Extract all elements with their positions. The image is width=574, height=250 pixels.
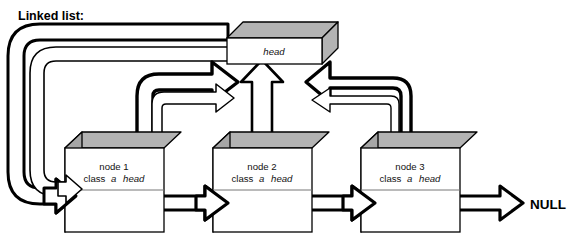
node-box-2-class-prefix: class <box>232 173 254 184</box>
linked-list-diagram: Linked list: head <box>0 0 574 250</box>
node-box-3-name: node 3 <box>395 161 424 172</box>
head-box: head <box>227 22 338 64</box>
diagram-canvas: Linked list: head <box>0 0 574 250</box>
node-box-3-class-prefix: class <box>380 173 402 184</box>
node-box-3: node 3 class a head <box>361 132 477 232</box>
node-box-1-name: node 1 <box>99 161 128 172</box>
page-title: Linked list: <box>18 9 84 23</box>
null-terminator-label: NULL <box>530 197 566 212</box>
node-box-1-class-name: a <box>111 173 116 184</box>
node-box-2-class-name: a <box>259 173 264 184</box>
node-box-3-class: class a head <box>380 173 442 184</box>
node-box-2-member: head <box>271 173 293 184</box>
node-box-1-member: head <box>123 173 145 184</box>
node-box-3-member: head <box>419 173 441 184</box>
node-box-2: node 2 class a head <box>213 132 329 232</box>
node-box-1: node 1 class a head <box>65 132 181 232</box>
node-box-2-name: node 2 <box>247 161 276 172</box>
node-box-1-class: class a head <box>84 173 146 184</box>
node-box-3-class-name: a <box>407 173 412 184</box>
node-box-1-class-prefix: class <box>84 173 106 184</box>
head-box-label: head <box>263 46 285 57</box>
node-box-2-class: class a head <box>232 173 294 184</box>
